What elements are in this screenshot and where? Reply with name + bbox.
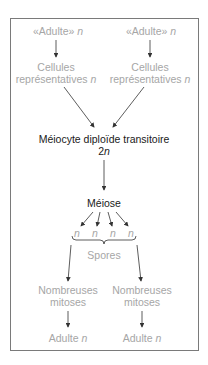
product-n-2: n — [92, 227, 98, 239]
arrow-meiosis-to-n1 — [81, 212, 93, 226]
cells-label-top-left: Cellules représentatives n — [16, 61, 97, 85]
arrows-layer — [0, 0, 208, 365]
adult-label-bottom-right: Adulte n — [123, 332, 162, 344]
spores-label: Spores — [87, 249, 120, 261]
arrow-meiosis-to-n3 — [108, 212, 112, 226]
mitoses-label-left: Nombreuses mitoses — [38, 284, 98, 308]
arrow-spores-to-mitoses-right — [137, 245, 141, 281]
meiosis-label: Méiose — [87, 197, 121, 209]
adult-label-top-left: «Adulte» n — [33, 25, 83, 37]
product-n-3: n — [110, 227, 116, 239]
arrow-cells-right-to-meiocyte — [113, 87, 144, 127]
meiocyte-label: Méiocyte diploïde transitoire 2n — [39, 133, 170, 157]
mitoses-label-right: Nombreuses mitoses — [112, 284, 172, 308]
product-n-4: n — [128, 227, 134, 239]
adult-label-bottom-left: Adulte n — [49, 332, 88, 344]
cells-label-top-right: Cellules représentatives n — [110, 61, 191, 85]
spores-brace — [72, 236, 136, 244]
adult-label-top-right: «Adulte» n — [126, 25, 176, 37]
product-n-1: n — [74, 227, 80, 239]
arrow-meiosis-to-n4 — [116, 212, 128, 226]
arrow-spores-to-mitoses-left — [68, 245, 71, 281]
arrow-meiosis-to-n2 — [97, 212, 100, 226]
arrow-cells-left-to-meiocyte — [64, 87, 94, 127]
